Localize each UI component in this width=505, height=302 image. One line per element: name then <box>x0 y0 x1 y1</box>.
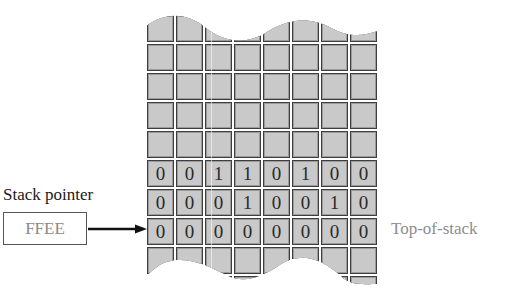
cell-bit: 0 <box>294 191 317 214</box>
cell-bit: 0 <box>294 220 317 243</box>
cell-border <box>263 276 290 302</box>
memory-cell <box>349 101 378 130</box>
cell-bit <box>265 278 288 301</box>
cell-bit <box>149 249 172 272</box>
cell-bit: 0 <box>178 220 201 243</box>
cell-bit: 0 <box>178 162 201 185</box>
cell-bit <box>323 133 346 156</box>
cell-bit: 1 <box>323 191 346 214</box>
memory-cell: 0 <box>349 188 378 217</box>
cell-bevel <box>206 277 231 302</box>
cell-bit <box>178 75 201 98</box>
memory-cell <box>146 246 175 275</box>
cell-bit <box>236 249 259 272</box>
cell-bit <box>323 278 346 301</box>
memory-cell <box>320 72 349 101</box>
cell-bit <box>149 133 172 156</box>
cell-bit <box>265 104 288 127</box>
memory-cell <box>233 246 262 275</box>
memory-cell: 0 <box>262 188 291 217</box>
cell-bit: 0 <box>265 191 288 214</box>
cell-bit <box>352 75 375 98</box>
memory-cell <box>233 72 262 101</box>
memory-grid: 001101000001001000000000 <box>146 14 378 302</box>
cell-bit <box>236 75 259 98</box>
memory-cell <box>175 101 204 130</box>
cell-bit <box>149 75 172 98</box>
cell-bit <box>265 17 288 40</box>
cell-bit <box>352 249 375 272</box>
memory-cell <box>262 275 291 302</box>
memory-cell <box>233 43 262 72</box>
cell-bit <box>265 249 288 272</box>
memory-cell: 0 <box>175 188 204 217</box>
cell-bit <box>265 133 288 156</box>
memory-cell <box>146 101 175 130</box>
cell-bit <box>323 75 346 98</box>
cell-bit <box>323 17 346 40</box>
cell-bit <box>236 104 259 127</box>
cell-bit <box>265 46 288 69</box>
cell-bit: 0 <box>323 220 346 243</box>
cell-bit <box>323 249 346 272</box>
memory-cell: 0 <box>233 217 262 246</box>
memory-cell: 0 <box>349 159 378 188</box>
memory-cell <box>175 246 204 275</box>
memory-cell <box>146 43 175 72</box>
memory-cell <box>349 130 378 159</box>
memory-cell <box>233 101 262 130</box>
cell-bit <box>178 46 201 69</box>
cell-bit <box>178 17 201 40</box>
cell-bit <box>294 133 317 156</box>
cell-bit <box>149 17 172 40</box>
cell-bevel <box>293 277 318 302</box>
cell-bevel <box>235 277 260 302</box>
memory-cell: 1 <box>204 159 233 188</box>
top-of-stack-label: Top-of-stack <box>391 219 478 239</box>
memory-cell <box>320 275 349 302</box>
cell-bevel <box>322 277 347 302</box>
memory-cell <box>175 72 204 101</box>
scan-artifact <box>211 14 212 288</box>
memory-cell: 0 <box>204 188 233 217</box>
cell-bit: 0 <box>323 162 346 185</box>
cell-bit: 1 <box>294 162 317 185</box>
stack-pointer-label: Stack pointer <box>3 185 93 205</box>
cell-bit <box>352 17 375 40</box>
memory-cell <box>146 72 175 101</box>
memory-cell <box>320 101 349 130</box>
cell-bevel <box>235 16 260 41</box>
memory-cell <box>146 14 175 43</box>
memory-cell <box>233 130 262 159</box>
memory-cell: 1 <box>320 188 349 217</box>
cell-bit <box>236 133 259 156</box>
cell-bit <box>352 133 375 156</box>
memory-cell <box>291 130 320 159</box>
cell-border <box>292 276 319 302</box>
memory-cell <box>262 14 291 43</box>
cell-bit: 0 <box>178 191 201 214</box>
cell-bit <box>178 133 201 156</box>
cell-border <box>234 276 261 302</box>
memory-cell: 0 <box>175 217 204 246</box>
cell-bit <box>236 46 259 69</box>
memory-cell <box>349 275 378 302</box>
cell-bit: 0 <box>149 162 172 185</box>
cell-bit <box>178 249 201 272</box>
memory-cell <box>291 14 320 43</box>
cell-bit <box>149 278 172 301</box>
cell-bevel <box>264 277 289 302</box>
memory-cell <box>204 275 233 302</box>
cell-bevel <box>177 277 202 302</box>
cell-bit <box>149 104 172 127</box>
cell-bit: 0 <box>236 220 259 243</box>
memory-cell <box>204 130 233 159</box>
memory-cell <box>233 275 262 302</box>
memory-cell <box>262 130 291 159</box>
cell-bit <box>207 278 230 301</box>
cell-bit <box>236 278 259 301</box>
cell-bit: 0 <box>352 191 375 214</box>
cell-bit <box>178 104 201 127</box>
memory-cell <box>291 43 320 72</box>
cell-bit <box>236 17 259 40</box>
